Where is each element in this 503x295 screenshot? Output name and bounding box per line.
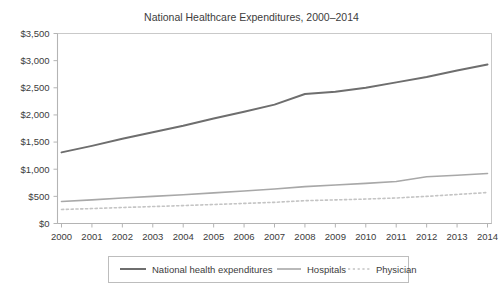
x-tick-label: 2004: [173, 231, 194, 242]
x-tick-label: 2001: [81, 231, 102, 242]
x-tick-label: 2006: [234, 231, 255, 242]
legend-label-0: National health expenditures: [152, 264, 273, 275]
x-tick-label: 2010: [355, 231, 376, 242]
x-tick-label: 2013: [447, 231, 468, 242]
y-tick-label: $3,500: [20, 28, 49, 39]
y-tick-label: $2,500: [20, 82, 49, 93]
healthcare-expenditures-line-chart: National Healthcare Expenditures, 2000–2…: [0, 0, 503, 295]
x-tick-label: 2005: [203, 231, 224, 242]
x-tick-label: 2011: [386, 231, 406, 242]
x-tick-label: 2009: [325, 231, 346, 242]
x-tick-label: 2000: [51, 231, 72, 242]
y-tick-label: $1,000: [20, 164, 49, 175]
y-tick-label: $2,000: [20, 109, 49, 120]
y-tick-label: $500: [28, 191, 49, 202]
x-tick-label: 2014: [477, 231, 498, 242]
plot-area: [58, 34, 492, 224]
y-tick-label: $1,500: [20, 136, 49, 147]
legend-label-2: Physician: [376, 264, 417, 275]
x-tick-label: 2008: [294, 231, 315, 242]
x-tick-label: 2007: [264, 231, 285, 242]
chart-title: National Healthcare Expenditures, 2000–2…: [144, 11, 359, 23]
y-tick-label: $0: [39, 218, 50, 229]
chart-legend: National health expendituresHospitalsPhy…: [109, 257, 417, 283]
x-tick-label: 2003: [142, 231, 163, 242]
legend-label-1: Hospitals: [307, 264, 346, 275]
y-tick-label: $3,000: [20, 55, 49, 66]
x-tick-label: 2012: [416, 231, 437, 242]
x-tick-label: 2002: [112, 231, 133, 242]
